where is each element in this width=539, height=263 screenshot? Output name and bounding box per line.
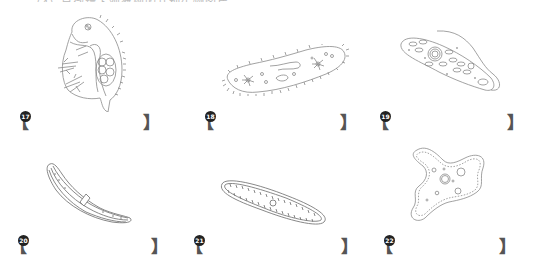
water-flea-drawing-icon [40,12,130,112]
answer-bracket-18[interactable]: 【 18 】 [197,113,357,133]
question-number-badge: 22 [384,235,395,246]
answer-bracket-20[interactable]: 【 20 】 [10,237,168,257]
question-number-badge: 21 [194,235,205,246]
answer-bracket-17[interactable]: 【 17 】 [12,113,160,133]
question-number-badge: 19 [380,111,391,122]
close-bracket: 】 [151,237,168,257]
paramecium-drawing-icon [222,44,350,96]
amoeba-drawing-icon [407,144,489,222]
answer-bracket-22[interactable]: 【 22 】 [376,237,516,257]
closterium-drawing-icon [42,160,134,225]
question-number-badge: 20 [18,235,29,246]
answer-bracket-19[interactable]: 【 19 】 [372,113,524,133]
diatom-drawing-icon [218,178,330,226]
figure-19-euglena [395,30,505,100]
figure-22-amoeba [407,144,489,222]
close-bracket: 】 [499,237,516,257]
close-bracket: 】 [341,237,358,257]
figure-21-diatom [218,178,330,226]
euglena-drawing-icon [395,30,505,100]
figure-20-closterium [42,160,134,225]
cutoff-heading-text: （4）显微镜下观察到的几种生物图片 [30,0,510,2]
question-number-badge: 18 [205,111,216,122]
answer-bracket-21[interactable]: 【 21 】 [186,237,358,257]
figure-17-water-flea [40,12,130,112]
close-bracket: 】 [143,113,160,133]
close-bracket: 】 [507,113,524,133]
figure-18-paramecium [222,44,350,96]
close-bracket: 】 [340,113,357,133]
question-number-badge: 17 [20,111,31,122]
